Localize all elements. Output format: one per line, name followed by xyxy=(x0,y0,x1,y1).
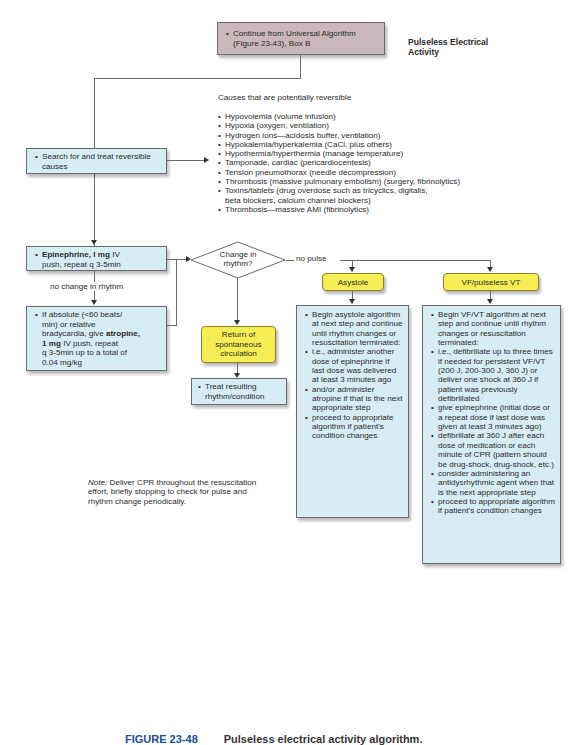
vf-bullet: i.e., defibrillate up to three times if … xyxy=(431,347,556,403)
arrow-down-icon xyxy=(91,240,97,245)
figure-title: Pulseless electrical activity algorithm. xyxy=(224,733,423,745)
connector xyxy=(237,278,238,322)
cause-item: Tamponade, cardiac (pericardiocentesis) xyxy=(218,158,460,167)
treat-line: Treat resulting xyxy=(198,382,282,392)
cause-item: Hypoxia (oxygen, ventilation) xyxy=(218,121,460,130)
vf-detail-box: Begin VF/VT algorithm at next step and c… xyxy=(422,305,561,564)
cpr-note: Note: Deliver CPR throughout the resusci… xyxy=(88,478,268,506)
start-box-text: Continue from Universal Algorithm (Figur… xyxy=(226,29,378,48)
atropine-drug: atropine, xyxy=(106,329,140,338)
decision-line: Change in xyxy=(190,250,286,259)
search-box: Search for and treat reversible causes xyxy=(26,148,167,174)
cause-item: Thrombosis (massive pulmonary embolism) … xyxy=(218,177,460,186)
cause-item: Hydrogen ions—acidosis buffer, ventilati… xyxy=(218,131,460,140)
rosc-line: circulation xyxy=(202,349,275,359)
atropine-line: 1 mg IV push, repeat xyxy=(35,339,162,349)
note-text: Deliver CPR throughout the resuscitation… xyxy=(88,478,256,506)
epinephrine-line2: push, repeat q 3-5min xyxy=(35,260,160,270)
atropine-dose: 1 mg xyxy=(42,339,61,348)
vf-bullet: consider administering an antidysrhythmi… xyxy=(431,469,556,497)
cause-item: Hypothermia/hyperthermia (manage tempera… xyxy=(218,149,460,158)
cause-item: Hypokalemia/hyperkalemia (CaCl, plus oth… xyxy=(218,140,460,149)
atropine-line: 0.04 mg/kg xyxy=(35,358,162,368)
connector xyxy=(167,160,207,161)
vf-bullet: Begin VF/VT algorithm at next step and c… xyxy=(431,310,556,347)
atropine-text: bradycardia, give xyxy=(42,329,106,338)
causes-list: Hypovolemia (volume infusion) Hypoxia (o… xyxy=(218,112,460,214)
epinephrine-box: Epinephrine, I mg IV push, repeat q 3-5m… xyxy=(26,246,167,271)
asystole-label: Asystole xyxy=(338,278,369,287)
arrow-down-icon xyxy=(234,320,240,325)
connector xyxy=(286,260,294,261)
figure-number: FIGURE 23-48 xyxy=(125,733,198,745)
connector xyxy=(176,259,177,326)
no-pulse-label: no pulse xyxy=(296,254,327,263)
treat-box: Treat resulting rhythm/condition xyxy=(191,378,287,405)
vf-label: VF/pulseless VT xyxy=(462,278,521,287)
vf-bullet: proceed to appropriate algorithm if pati… xyxy=(431,497,556,516)
asystole-box: Asystole xyxy=(322,273,384,291)
asystole-bullet: and/or administer atropine if that is th… xyxy=(305,385,403,413)
cause-item: Toxins/tablets (drug overdose such as tr… xyxy=(218,186,460,195)
decision-text: Change in rhythm? xyxy=(190,250,286,269)
rosc-line: spontaneous xyxy=(202,340,275,350)
cause-item: Tension pneumothorax (needle decompressi… xyxy=(218,168,460,177)
vf-box: VF/pulseless VT xyxy=(443,273,539,291)
epinephrine-route: IV xyxy=(110,250,120,259)
rosc-box: Return of spontaneous circulation xyxy=(201,326,276,363)
connector xyxy=(300,55,301,79)
note-label: Note: xyxy=(88,478,107,487)
cause-item-continued: beta blockers, calcium channel blockers) xyxy=(218,196,460,205)
decision-line: rhythm? xyxy=(190,259,286,268)
atropine-line: min) or relative xyxy=(35,320,162,330)
search-box-text: Search for and treat reversible causes xyxy=(35,152,160,171)
epinephrine-line1: Epinephrine, I mg IV xyxy=(35,250,160,260)
arrow-down-icon xyxy=(349,267,355,272)
cause-item: Hypovolemia (volume infusion) xyxy=(218,112,460,121)
diagram-title: Pulseless Electrical Activity xyxy=(408,38,518,57)
epinephrine-dose: Epinephrine, I mg xyxy=(42,250,110,259)
arrow-right-icon xyxy=(204,157,209,163)
no-change-label: no change in rhythm xyxy=(48,282,125,291)
arrow-down-icon xyxy=(487,299,493,304)
arrow-down-icon xyxy=(487,267,493,272)
atropine-line: If absolute (<60 beats/ xyxy=(35,310,162,320)
atropine-box: If absolute (<60 beats/ min) or relative… xyxy=(26,306,167,371)
treat-line: rhythm/condition xyxy=(198,392,282,402)
arrow-down-icon xyxy=(91,300,97,305)
connector xyxy=(94,78,301,79)
causes-heading: Causes that are potentially reversible xyxy=(218,93,351,102)
atropine-line: q 3-5min up to a total of xyxy=(35,348,162,358)
arrow-down-icon xyxy=(349,299,355,304)
atropine-line: bradycardia, give atropine, xyxy=(35,329,162,339)
asystole-bullet: proceed to appropriate algorithm if pati… xyxy=(305,413,403,441)
vf-bullet: give epinephrine (initial dose or a repe… xyxy=(431,403,556,431)
atropine-text: IV push, repeat xyxy=(61,339,118,348)
cause-item: Thrombosis—massive AMI (fibrinolytics) xyxy=(218,205,460,214)
rosc-line: Return of xyxy=(202,330,275,340)
start-box: Continue from Universal Algorithm (Figur… xyxy=(217,22,385,55)
asystole-bullet: i.e., administer another dose of epineph… xyxy=(305,347,403,384)
asystole-bullet: Begin asystole algorithm at next step an… xyxy=(305,310,403,347)
vf-bullet: defibrillate at 360 J after each dose of… xyxy=(431,431,556,468)
asystole-detail-box: Begin asystole algorithm at next step an… xyxy=(296,305,409,518)
figure-caption: FIGURE 23-48Pulseless electrical activit… xyxy=(125,733,422,745)
connector xyxy=(340,260,491,261)
